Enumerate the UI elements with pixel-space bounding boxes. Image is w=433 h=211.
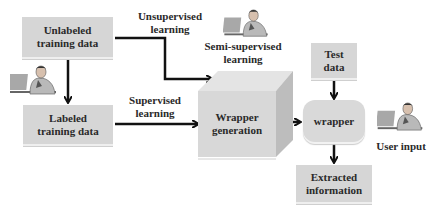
extracted-line1: Extracted: [306, 171, 362, 184]
wrapper-node: wrapper: [303, 100, 365, 142]
user-input-label: User input: [372, 140, 430, 153]
extracted-information-node: Extracted information: [296, 165, 372, 202]
extracted-line2: information: [306, 184, 362, 197]
test-data-node: Test data: [311, 43, 357, 78]
wrapper-label: wrapper: [314, 115, 354, 128]
unlabeled-training-data-node: Unlabeled training data: [22, 17, 113, 57]
unsupervised-line2: learning: [125, 23, 215, 36]
supervised-line2: learning: [115, 107, 195, 120]
test-data-line1: Test: [324, 48, 345, 61]
semi-supervised-line1: Semi-supervised: [200, 40, 286, 53]
unsupervised-line1: Unsupervised: [125, 10, 215, 23]
test-data-line2: data: [324, 61, 345, 74]
labeled-line2: training data: [37, 125, 98, 138]
labeled-line1: Labeled: [37, 112, 98, 125]
wrapper-generation-node: Wrapper generation: [198, 91, 276, 157]
supervised-learning-label: Supervised learning: [115, 94, 195, 120]
wrapper-generation-line1: Wrapper: [212, 111, 262, 124]
person-at-laptop-icon: [377, 101, 423, 134]
unlabeled-line1: Unlabeled: [37, 24, 98, 37]
semi-supervised-learning-label: Semi-supervised learning: [200, 40, 286, 66]
supervised-line1: Supervised: [115, 94, 195, 107]
semi-supervised-line2: learning: [200, 53, 286, 66]
wrapper-generation-line2: generation: [212, 124, 262, 137]
unlabeled-line2: training data: [37, 37, 98, 50]
labeled-training-data-node: Labeled training data: [23, 105, 113, 144]
person-at-laptop-icon: [223, 8, 269, 40]
unsupervised-learning-label: Unsupervised learning: [125, 10, 215, 36]
person-at-laptop-icon: [10, 64, 56, 98]
